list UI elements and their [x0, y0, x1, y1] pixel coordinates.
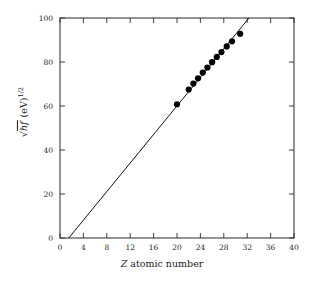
data-point	[200, 69, 206, 75]
radical-sign-icon: √	[18, 131, 29, 137]
x-tick-label: 24	[196, 243, 206, 252]
y-axis-label-radicand: hf	[17, 120, 29, 131]
x-tick-label: 0	[58, 243, 63, 252]
moseley-plot-figure: 0481216202428323640 020406080100 Z atomi…	[0, 0, 324, 281]
y-axis-label-exponent: 1/2	[17, 87, 25, 97]
data-point	[186, 86, 192, 92]
data-point-series	[174, 31, 243, 108]
x-tick-label: 32	[242, 243, 252, 252]
x-tick-label: 16	[149, 243, 159, 252]
y-axis-ticks	[60, 18, 294, 238]
axes-frame	[60, 18, 294, 238]
data-point	[214, 54, 220, 60]
x-tick-label: 28	[219, 243, 229, 252]
plot-frame-box	[60, 18, 294, 238]
y-axis-label: √hf (eV)1/2	[17, 37, 29, 187]
x-axis-tick-labels: 0481216202428323640	[58, 243, 299, 252]
x-tick-label: 12	[125, 243, 135, 252]
y-axis-tick-labels: 020406080100	[39, 14, 54, 243]
x-tick-label: 8	[104, 243, 109, 252]
x-axis-label: Z atomic number	[0, 258, 324, 269]
y-tick-label: 40	[43, 146, 53, 155]
data-point	[204, 64, 210, 70]
x-tick-label: 4	[81, 243, 86, 252]
data-point	[190, 80, 196, 86]
y-tick-label: 20	[43, 190, 53, 199]
x-axis-label-text: atomic number	[127, 258, 203, 269]
data-point	[224, 43, 230, 49]
y-tick-label: 0	[48, 234, 53, 243]
chart-canvas: 0481216202428323640 020406080100	[0, 0, 324, 281]
data-point	[229, 38, 235, 44]
data-point	[174, 101, 180, 107]
x-tick-label: 36	[266, 243, 276, 252]
y-tick-label: 100	[39, 14, 54, 23]
y-tick-label: 80	[43, 58, 53, 67]
x-axis-ticks	[60, 18, 294, 238]
y-tick-label: 60	[43, 102, 53, 111]
data-point	[218, 49, 224, 55]
x-tick-label: 40	[289, 243, 299, 252]
data-point	[195, 75, 201, 81]
y-axis-label-units: (eV)	[18, 98, 29, 121]
x-tick-label: 20	[172, 243, 182, 252]
data-point	[209, 59, 215, 65]
data-point	[237, 31, 243, 37]
